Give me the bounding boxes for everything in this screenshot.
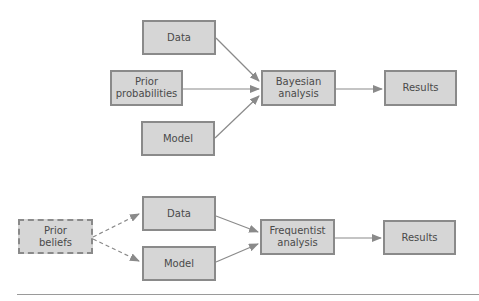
freq-results-label: Results <box>401 232 437 244</box>
bayes-data-box: Data <box>142 20 216 55</box>
bayes-prior-label: Prior probabilities <box>116 76 178 100</box>
prior-beliefs-label: Prior beliefs <box>34 225 77 249</box>
arrow-prior-beliefs-to-data <box>93 214 139 237</box>
bayesian-analysis-box: Bayesian analysis <box>261 70 336 106</box>
arrow-data-to-bayesian <box>216 38 259 81</box>
frequentist-analysis-box: Frequentist analysis <box>260 219 335 255</box>
freq-model-label: Model <box>164 258 194 270</box>
freq-results-box: Results <box>383 220 456 255</box>
diagram-edges <box>0 0 479 301</box>
freq-data-box: Data <box>142 196 216 231</box>
bayes-data-label: Data <box>167 32 191 44</box>
arrow-model-to-bayesian <box>215 96 259 138</box>
bayes-results-label: Results <box>402 82 438 94</box>
bayes-results-box: Results <box>384 70 457 106</box>
freq-data-label: Data <box>167 208 191 220</box>
bayes-model-label: Model <box>163 133 193 145</box>
arrow-data-to-frequentist <box>216 216 258 232</box>
prior-beliefs-box: Prior beliefs <box>18 219 93 254</box>
bayes-prior-box: Prior probabilities <box>110 70 183 106</box>
frequentist-analysis-label: Frequentist analysis <box>266 225 329 249</box>
bayes-model-box: Model <box>141 121 215 156</box>
bottom-divider <box>17 294 479 295</box>
freq-model-box: Model <box>142 246 216 281</box>
arrow-prior-beliefs-to-model <box>93 239 139 261</box>
arrow-model-to-frequentist <box>216 244 258 262</box>
bayesian-analysis-label: Bayesian analysis <box>271 76 326 100</box>
